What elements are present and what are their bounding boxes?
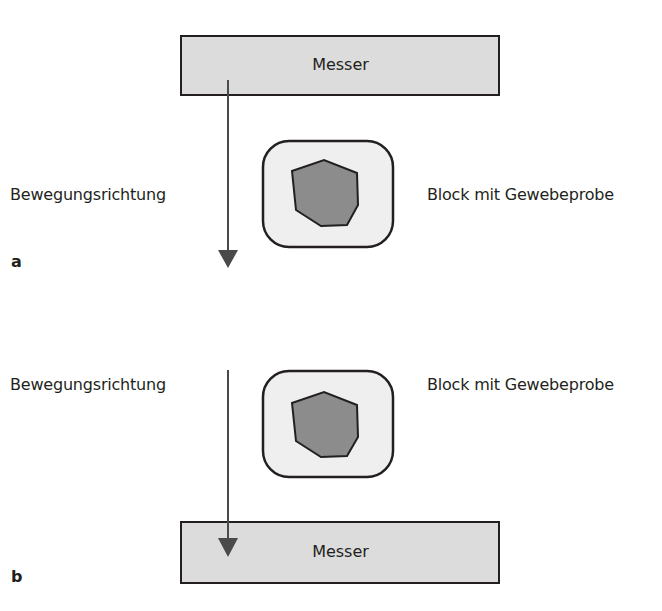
direction-label-b: Bewegungsrichtung	[10, 375, 166, 394]
panel-label-a: a	[11, 252, 22, 271]
block-label-a: Block mit Gewebeprobe	[427, 185, 614, 204]
direction-label-a: Bewegungsrichtung	[10, 185, 166, 204]
knife-label-b: Messer	[181, 542, 500, 561]
block-label-b: Block mit Gewebeprobe	[427, 375, 614, 394]
diagram-canvas	[0, 0, 662, 611]
panel-label-b: b	[11, 567, 22, 586]
knife-label-a: Messer	[181, 55, 500, 74]
arrow-down-icon-a	[218, 250, 238, 268]
